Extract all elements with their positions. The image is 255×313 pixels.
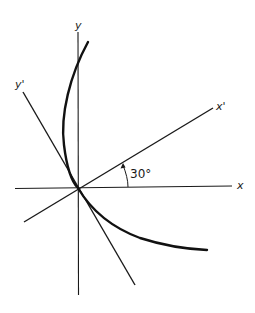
angle-label: 30° bbox=[130, 167, 151, 181]
x-axis bbox=[15, 186, 232, 189]
rotation-diagram: y y' x' x 30° bbox=[0, 0, 255, 313]
y-axis bbox=[78, 32, 79, 295]
x-prime-axis-label: x' bbox=[215, 100, 226, 113]
curve bbox=[63, 42, 207, 250]
angle-arc bbox=[123, 165, 128, 187]
x-axis-label: x bbox=[236, 179, 244, 192]
x-prime-axis bbox=[24, 108, 213, 222]
y-prime-axis-label: y' bbox=[14, 78, 25, 91]
y-axis-label: y bbox=[74, 19, 82, 32]
